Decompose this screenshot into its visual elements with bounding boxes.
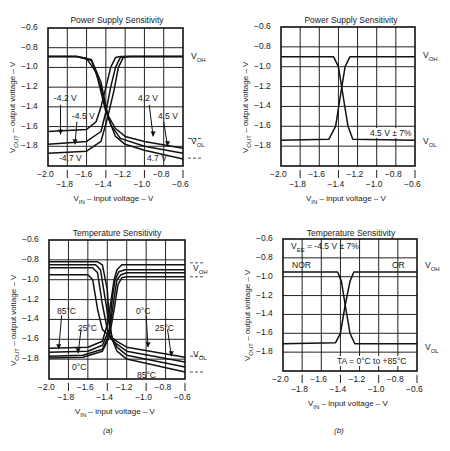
x-tick-label: −1.0: [135, 392, 152, 402]
y-tick-label: −1.0: [22, 274, 39, 284]
y-tick-label: −1.0: [21, 61, 38, 71]
y-tick-label: −1.2: [22, 294, 39, 304]
y-tick-label: −1.4: [21, 101, 38, 111]
x-tick-label: −1.6: [308, 169, 325, 179]
nor-label: NOR: [292, 260, 311, 270]
y-axis-label: VOUT – output voltage – V: [241, 61, 252, 152]
annotation-label: 0°C: [136, 306, 150, 316]
y-tick-label: −1.2: [256, 290, 273, 300]
y-tick-label: −1.4: [254, 100, 271, 110]
annotation-label: 4.2 V: [138, 93, 158, 103]
panel-b-top: Power Supply Sensitivity 4.5 V ± 7% −0.6…: [225, 0, 450, 220]
vee-label: VEE = -4.5 V ± 7%: [291, 241, 359, 253]
y-tick-label: −0.6: [21, 22, 38, 32]
x-tick-label: −1.8: [289, 179, 306, 189]
x-tick-label: −0.6: [406, 384, 423, 394]
y-tick-label: −1.6: [254, 120, 271, 130]
figure-caption: (a): [103, 426, 113, 435]
annotation-label: 85°C: [137, 370, 156, 380]
annotation-label: 4.7 V: [147, 153, 167, 163]
y-axis-label: VOUT – output voltage – V: [9, 274, 20, 365]
y-tick-label: −0.6: [256, 233, 273, 243]
x-tick-label: −1.2: [347, 169, 364, 179]
annotation-label: 25°C: [78, 323, 97, 333]
x-tick-label: −1.0: [133, 179, 150, 189]
x-tick-label: −1.4: [96, 392, 113, 402]
or-label: OR: [392, 260, 405, 270]
y-tick-label: −0.8: [22, 254, 39, 264]
y-tick-label: −1.6: [22, 333, 39, 343]
y-tick-label: −1.8: [21, 140, 38, 150]
x-tick-label: −1.8: [291, 384, 308, 394]
annotation-label: -4.5 V: [72, 111, 95, 121]
x-tick-label: −2.0: [272, 374, 289, 384]
y-tick-label: −1.2: [21, 81, 38, 91]
y-tick-label: −1.0: [254, 61, 271, 71]
ta-label: TA = 0°C to +85°C: [336, 356, 407, 366]
x-tick-label: −1.0: [366, 179, 383, 189]
x-tick-label: −0.6: [404, 179, 421, 189]
x-tick-label: −0.8: [155, 382, 172, 392]
y-tick-label: −1.8: [254, 140, 271, 150]
x-tick-label: −1.2: [349, 374, 366, 384]
vee-sub: EE: [297, 247, 305, 253]
x-axis-label: VIN – input voltage – V: [74, 194, 154, 205]
x-axis-label: VIN – input voltage – V: [308, 399, 388, 410]
annotation-label: 85°C: [57, 306, 76, 316]
y-tick-label: −1.8: [22, 353, 39, 363]
y-tick-label: −1.2: [254, 81, 271, 91]
x-tick-label: −1.8: [57, 392, 74, 402]
x-tick-label: −0.6: [172, 179, 189, 189]
y-tick-label: −0.6: [22, 234, 39, 244]
x-tick-label: −1.6: [310, 374, 327, 384]
figure-caption: (b): [334, 426, 344, 435]
x-tick-label: −2.0: [37, 169, 54, 179]
vee-rest: = -4.5 V ± 7%: [305, 241, 359, 251]
x-tick-label: −1.6: [77, 382, 94, 392]
vol-label: VOL: [193, 349, 207, 361]
x-tick-label: −2.0: [270, 169, 287, 179]
annotation-label: 4.5 V ± 7%: [369, 128, 413, 138]
y-tick-label: −0.8: [256, 252, 273, 262]
x-tick-label: −1.4: [95, 179, 112, 189]
vol-label: VOL: [425, 342, 439, 354]
vol-label: VOL: [423, 136, 437, 148]
x-tick-label: −0.6: [174, 392, 191, 402]
x-axis-label: VIN – input voltage – V: [75, 407, 155, 418]
voh-label: VOH: [423, 50, 438, 62]
y-tick-label: −0.8: [254, 41, 271, 51]
voh-label: VOH: [191, 51, 206, 63]
annotation-label: -4.7 V: [59, 153, 82, 163]
x-tick-label: −0.8: [387, 374, 404, 384]
x-tick-label: −1.0: [368, 384, 385, 394]
panel-a-bottom: Temperature Sensitivity 85°C 25°C 0°C 0°…: [0, 220, 225, 451]
y-tick-label: −1.0: [256, 271, 273, 281]
x-tick-label: −0.8: [385, 169, 402, 179]
y-tick-label: −1.8: [256, 346, 273, 356]
x-tick-label: −1.8: [56, 179, 73, 189]
y-axis-label: VOUT – output voltage – V: [8, 62, 19, 153]
annotation-label: -4.2 V: [54, 93, 77, 103]
panel-a-top: Power Supply Sensitivity -4.2 V -4.5 V -…: [0, 0, 225, 220]
voh-label: VOH: [193, 263, 208, 275]
y-tick-label: −1.4: [22, 313, 39, 323]
y-tick-label: −1.4: [256, 308, 273, 318]
y-tick-label: −1.6: [21, 121, 38, 131]
panel-b-bottom: Temperature Sensitivity VEE = -4.5 V ± 7…: [225, 220, 450, 451]
x-tick-label: −1.2: [114, 169, 131, 179]
x-axis-label: VIN – input voltage – V: [306, 194, 386, 205]
vol-label: VOL: [191, 136, 205, 148]
y-tick-label: −1.6: [256, 327, 273, 337]
annotation-label: 25°C: [155, 323, 174, 333]
x-tick-label: −1.4: [329, 384, 346, 394]
annotation-label: 4.5 V: [158, 111, 178, 121]
x-tick-label: −1.2: [116, 382, 133, 392]
y-axis-label: VOUT – output voltage – V: [243, 270, 254, 361]
voh-label: VOH: [425, 260, 440, 272]
annotation-label: 0°C: [72, 362, 86, 372]
x-tick-label: −2.0: [38, 382, 55, 392]
x-tick-label: −0.8: [153, 169, 170, 179]
y-tick-label: −0.8: [21, 42, 38, 52]
x-tick-label: −1.4: [327, 179, 344, 189]
x-tick-label: −1.6: [76, 169, 93, 179]
